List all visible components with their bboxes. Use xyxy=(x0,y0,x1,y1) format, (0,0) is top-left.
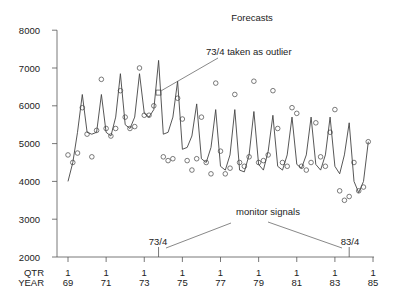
axes: 2000300040005000600070008000169171173175… xyxy=(19,25,378,288)
observed-point xyxy=(285,164,290,169)
observed-point xyxy=(318,155,323,160)
x-tick-year: 83 xyxy=(330,277,341,288)
plot-area xyxy=(66,58,371,257)
observed-point xyxy=(90,155,95,160)
y-tick-label: 6000 xyxy=(19,100,40,111)
observed-point xyxy=(199,115,204,120)
x-tick-year: 71 xyxy=(101,277,112,288)
observed-point xyxy=(304,168,309,173)
signal-label-73-4: 73/4 xyxy=(149,236,168,247)
observed-point xyxy=(99,77,104,82)
chart-title: Forecasts xyxy=(231,12,273,23)
y-tick-label: 5000 xyxy=(19,138,40,149)
x-tick-year: 81 xyxy=(291,277,302,288)
observed-point xyxy=(166,158,171,163)
outlier-pointer xyxy=(162,58,218,91)
observed-point xyxy=(314,121,319,126)
observed-point xyxy=(161,155,166,160)
observed-point xyxy=(137,66,142,71)
y-tick-label: 2000 xyxy=(19,252,40,263)
forecast-chart: 2000300040005000600070008000169171173175… xyxy=(0,0,400,302)
observed-point xyxy=(337,189,342,194)
outlier-annotation: 73/4 taken as outlier xyxy=(206,46,292,57)
observed-point xyxy=(213,81,218,86)
observed-point xyxy=(228,166,233,171)
x-tick-year: 69 xyxy=(63,277,74,288)
observed-point xyxy=(113,126,118,131)
observed-point xyxy=(190,168,195,173)
observed-point xyxy=(347,194,352,199)
signal-label-83-4: 83/4 xyxy=(341,236,360,247)
y-tick-label: 4000 xyxy=(19,176,40,187)
observed-point xyxy=(132,124,137,129)
y-tick-label: 8000 xyxy=(19,25,40,36)
observed-point xyxy=(261,158,266,163)
x-tick-year: 85 xyxy=(368,277,379,288)
x-axis-year-label: YEAR xyxy=(18,277,44,288)
observed-point xyxy=(342,198,347,203)
monitor-pointer-left xyxy=(166,223,231,248)
observed-point xyxy=(223,172,228,177)
observed-point xyxy=(294,111,299,116)
observed-point xyxy=(185,158,190,163)
monitor-annotation: monitor signals xyxy=(236,206,300,217)
observed-point xyxy=(361,185,366,190)
x-tick-year: 73 xyxy=(139,277,150,288)
observed-point xyxy=(280,160,285,165)
observed-point xyxy=(209,172,214,177)
monitor-pointer-right xyxy=(268,222,342,248)
observed-point xyxy=(233,92,238,97)
observed-point xyxy=(252,79,257,84)
observed-point xyxy=(266,153,271,158)
observed-point xyxy=(323,164,328,169)
observed-point xyxy=(333,107,338,112)
x-tick-year: 75 xyxy=(177,277,188,288)
observed-point xyxy=(171,156,176,161)
x-tick-year: 77 xyxy=(215,277,226,288)
observed-point xyxy=(290,105,295,110)
observed-point xyxy=(123,115,128,120)
observed-point xyxy=(275,126,280,131)
observed-point xyxy=(180,117,185,122)
observed-point xyxy=(75,151,80,156)
observed-point xyxy=(271,88,276,93)
forecast-line xyxy=(68,60,368,192)
observed-point xyxy=(194,156,199,161)
observed-point xyxy=(66,153,71,158)
x-tick-year: 79 xyxy=(253,277,264,288)
y-tick-label: 7000 xyxy=(19,63,40,74)
y-tick-label: 3000 xyxy=(19,214,40,225)
observed-point xyxy=(309,160,314,165)
